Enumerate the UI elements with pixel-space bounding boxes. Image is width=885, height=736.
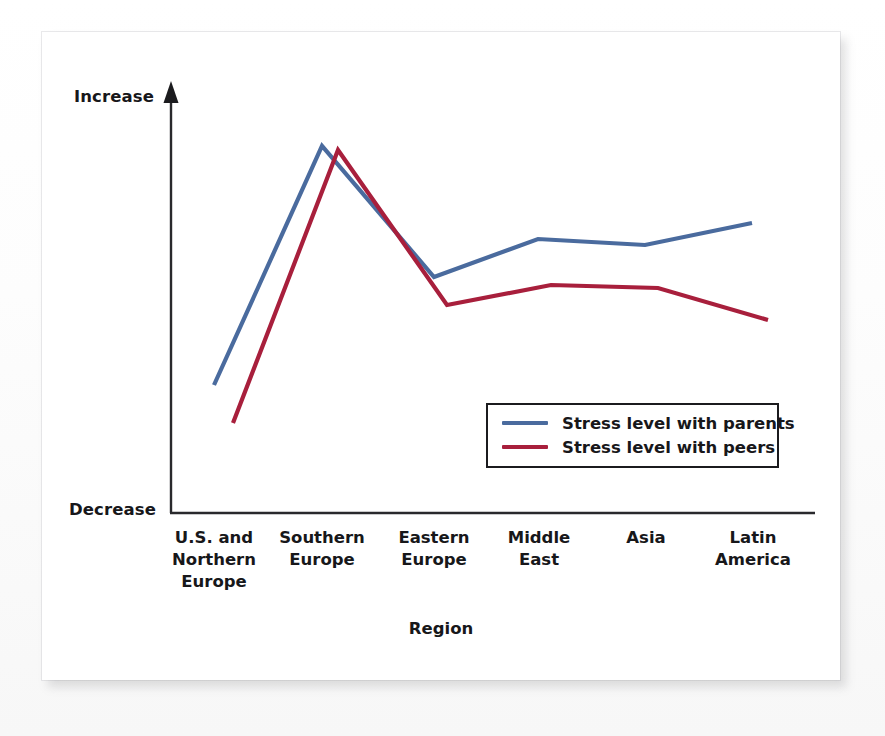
x-axis-title: Region <box>42 619 840 638</box>
legend-label-stress-with-parents: Stress level with parents <box>562 414 795 433</box>
legend-item-stress-with-peers: Stress level with peers <box>488 435 777 459</box>
legend-label-stress-with-peers: Stress level with peers <box>562 438 775 457</box>
legend-swatch-red-line-icon <box>502 445 548 449</box>
plot-area: Increase Decrease U.S. and Northern Euro… <box>42 32 840 680</box>
series-stress-with-peers <box>233 150 768 423</box>
chart-legend: Stress level with parents Stress level w… <box>486 403 779 468</box>
legend-item-stress-with-parents: Stress level with parents <box>488 411 777 435</box>
y-axis-bottom-label: Decrease <box>69 500 156 519</box>
figure-card: Increase Decrease U.S. and Northern Euro… <box>42 32 840 680</box>
y-axis-top-label: Increase <box>74 87 154 106</box>
y-axis <box>164 81 179 513</box>
line-chart-svg <box>42 32 840 680</box>
legend-swatch-blue-line-icon <box>502 421 548 425</box>
